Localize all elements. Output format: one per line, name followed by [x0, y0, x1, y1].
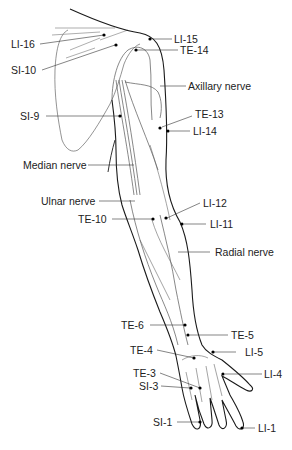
label-si9: SI-9: [20, 110, 39, 122]
label-ulnar-nerve: Ulnar nerve: [41, 195, 95, 207]
label-li4: LI-4: [264, 368, 282, 380]
point-te14: [134, 48, 137, 51]
point-li16: [102, 33, 105, 36]
point-si10: [114, 43, 117, 46]
label-te14: TE-14: [180, 44, 209, 56]
point-li1: [240, 426, 243, 429]
label-li12: LI-12: [203, 197, 227, 209]
label-te3: TE-3: [133, 367, 156, 379]
label-li11: LI-11: [210, 218, 233, 230]
point-li12: [164, 216, 167, 219]
label-median-nerve: Median nerve: [23, 159, 87, 171]
nerve-bundle: [116, 80, 161, 195]
point-te6: [183, 323, 186, 326]
point-li4: [221, 372, 224, 375]
label-te10: TE-10: [78, 213, 107, 225]
label-li14: LI-14: [193, 125, 217, 137]
point-si1: [198, 420, 201, 423]
label-axillary-nerve: Axillary nerve: [188, 80, 251, 92]
point-te4: [192, 356, 195, 359]
label-te4: TE-4: [130, 344, 153, 356]
label-si10: SI-10: [11, 64, 36, 76]
point-te3: [198, 386, 201, 389]
label-te13: TE-13: [195, 108, 224, 120]
label-si3: SI-3: [139, 380, 158, 392]
point-li11: [180, 222, 183, 225]
point-si3: [189, 386, 192, 389]
label-radial-nerve: Radial nerve: [215, 246, 274, 258]
label-li16: LI-16: [11, 38, 35, 50]
label-li5: LI-5: [245, 346, 263, 358]
point-te5: [186, 333, 189, 336]
point-li14: [166, 129, 169, 132]
label-te6: TE-6: [121, 319, 144, 331]
point-li5: [211, 350, 214, 353]
point-te13: [158, 126, 161, 129]
label-si1: SI-1: [153, 416, 172, 428]
point-te10: [151, 217, 154, 220]
point-li15: [148, 37, 151, 40]
label-te5: TE-5: [231, 329, 254, 341]
scapula-outline: [55, 30, 140, 151]
label-li1: LI-1: [258, 422, 276, 434]
point-si9: [118, 114, 121, 117]
